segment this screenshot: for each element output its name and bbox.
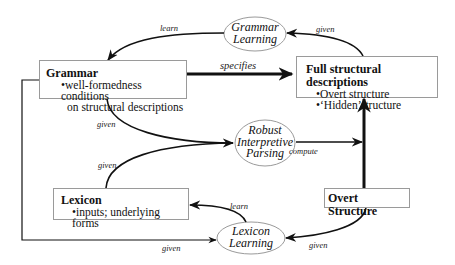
edge-label-given-lexicon-rip: given (98, 160, 116, 170)
edge-label-learn-lexicon: learn (230, 201, 248, 211)
grammar-item: on structural descriptions (46, 102, 186, 113)
edge-given-lexicon-to-rip (106, 143, 233, 188)
lexicon-learning-label: Lexicon Learning (217, 226, 285, 249)
edge-label-given-fsd: given (316, 24, 334, 34)
lexicon-item: •inputs; underlying forms (61, 207, 188, 229)
grammar-node: Grammar •well-formedness conditions on s… (39, 60, 187, 99)
edge-label-compute: compute (289, 146, 318, 156)
edge-learn-grammar (108, 33, 224, 60)
fsd-item: •‘Hidden’structure (306, 100, 437, 111)
full-structural-descriptions-node: Full structural descriptions •Overt stru… (296, 56, 438, 98)
edge-given-fsd-to-grammar-learning (287, 33, 363, 56)
lexicon-node: Lexicon •inputs; underlying forms (53, 188, 189, 220)
full-structural-descriptions-title: Full structural descriptions (306, 63, 437, 89)
label-line: Learning (224, 34, 286, 46)
edge-label-given-grammar-rip: given (97, 119, 115, 129)
edge-label-given-overt: given (309, 240, 327, 250)
overt-structure-node: Overt Structure (324, 188, 410, 208)
label-line: Learning (217, 238, 285, 250)
grammar-item: •well-formedness conditions (46, 80, 186, 102)
edge-label-learn-grammar: learn (160, 23, 178, 33)
edge-label-specifies: specifies (220, 60, 256, 71)
grammar-learning-label: Grammar Learning (224, 22, 286, 45)
edge-label-given-grammar-lexicon-learning: given (162, 243, 180, 253)
overt-structure-title: Overt Structure (328, 192, 409, 218)
